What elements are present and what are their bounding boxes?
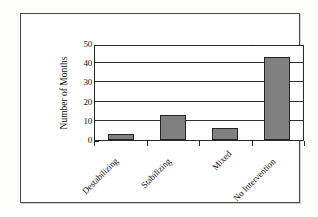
figure-border: Number of Months 01020304050 Destabilizi… [20, 13, 300, 203]
plot-area [94, 45, 304, 141]
scan-speck [171, 164, 173, 166]
bar-chart-figure: Number of Months 01020304050 Destabilizi… [0, 0, 318, 217]
bar-no-intervention [264, 57, 290, 140]
x-label-mixed: Mixed [210, 148, 233, 171]
bar-slot [147, 46, 199, 140]
y-tick-label: 0 [88, 136, 92, 145]
y-tick-label: 20 [83, 98, 92, 107]
bar-stabilizing [160, 115, 186, 140]
bar-series [95, 46, 303, 140]
y-tick-label: 50 [83, 40, 92, 49]
bar-slot [95, 46, 147, 140]
x-label-no-intervention: No Intervention [231, 156, 277, 202]
y-axis-title: Number of Months [57, 45, 71, 141]
y-tick-label: 10 [83, 117, 92, 126]
x-axis-labels: DestabilizingStabilizingMixedNo Interven… [61, 145, 316, 213]
scan-speck [251, 44, 252, 45]
x-label-stabilizing: Stabilizing [139, 156, 173, 190]
scan-speck [81, 184, 82, 185]
bar-mixed [212, 128, 238, 140]
x-label-destabilizing: Destabilizing [80, 156, 120, 196]
y-tick-label: 40 [83, 59, 92, 68]
bar-slot [251, 46, 303, 140]
y-tick-label: 30 [83, 78, 92, 87]
bar-slot [199, 46, 251, 140]
y-axis-ticks: 01020304050 [77, 38, 94, 148]
bar-destabilizing [108, 134, 134, 140]
